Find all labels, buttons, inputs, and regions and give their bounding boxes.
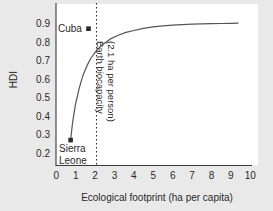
label-cuba: Cuba [58,23,82,34]
x-tick-8: 8 [204,170,220,181]
y-tick-0-5: 0.5 [22,92,50,103]
x-tick-2: 2 [87,170,103,181]
chart-figure: 0.9 0.8 0.7 0.6 0.5 0.4 0.3 0.2 HDI 0 1 … [0,0,273,211]
label-sierra-leone-line2: Leone [59,155,87,166]
label-sierra-leone-line1: Sierra [59,143,86,154]
annotation-earth-biocapacity-line1: Earth biocapacity [95,41,105,114]
y-tick-0-8: 0.8 [22,37,50,48]
y-tick-0-7: 0.7 [22,55,50,66]
x-tick-10: 10 [242,170,258,181]
y-tick-0-4: 0.4 [22,111,50,122]
y-axis-title: HDI [8,60,19,100]
x-tick-1: 1 [68,170,84,181]
y-tick-0-3: 0.3 [22,129,50,140]
y-tick-0-2: 0.2 [22,148,50,159]
x-tick-9: 9 [223,170,239,181]
marker-cuba [86,26,91,31]
x-tick-7: 7 [184,170,200,181]
x-tick-0: 0 [48,170,64,181]
annotation-earth-biocapacity-line2: (2.1 ha per person) [106,41,116,122]
marker-sierra-leone [68,138,73,143]
y-tick-0-6: 0.6 [22,74,50,85]
x-tick-5: 5 [145,170,161,181]
x-tick-6: 6 [165,170,181,181]
y-tick-0-9: 0.9 [22,18,50,29]
x-axis-title: Ecological footprint (ha per capita) [56,192,258,203]
x-tick-4: 4 [126,170,142,181]
x-tick-3: 3 [107,170,123,181]
